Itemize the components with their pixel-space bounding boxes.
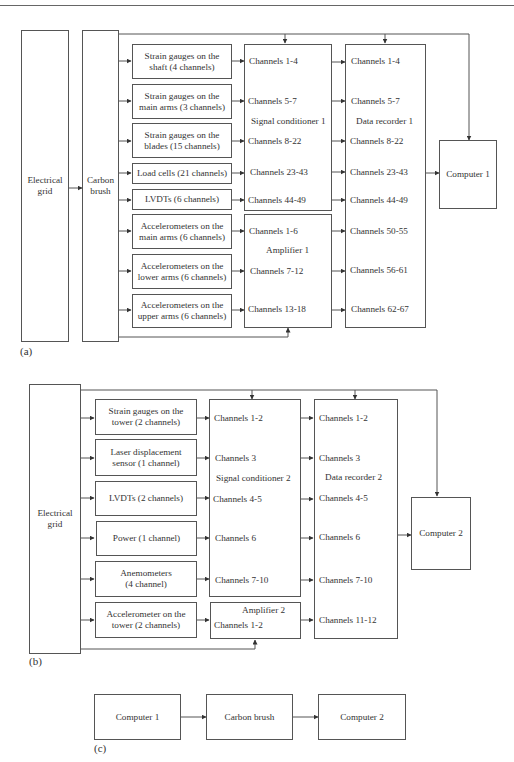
- computer-1-box: Computer 1: [439, 140, 497, 209]
- channel-label: Channels 7-12: [250, 266, 303, 277]
- panel-c-label: (c): [94, 742, 106, 754]
- computer-1-box-c: Computer 1: [94, 694, 181, 740]
- sensor-label: Power (1 channel): [113, 533, 180, 544]
- sensor-box: Strain gauges on thetower (2 channels): [95, 399, 197, 435]
- sensor-box: Accelerometers on themain arms (6 channe…: [132, 214, 232, 249]
- channel-label: Channels 44-49: [248, 195, 306, 206]
- channel-label: Channels 56-61: [350, 265, 408, 276]
- data-recorder-1: [345, 44, 426, 328]
- sensor-label: Strain gauges on the: [144, 130, 220, 141]
- sensor-box: Anemometers(4 channel): [95, 561, 197, 597]
- sensor-label: sensor (1 channel): [110, 458, 181, 469]
- sensor-label: main arms (6 channels): [139, 232, 225, 243]
- flow-box-label: Carbon brush: [225, 712, 275, 723]
- channel-label: Channels 13-18: [248, 304, 306, 315]
- sensor-label: shaft (4 channels): [145, 62, 220, 73]
- sensor-label: Laser displacement: [110, 447, 181, 458]
- sensor-label: Anemometers: [120, 568, 172, 579]
- channel-label: Channels 44-49: [350, 195, 408, 206]
- amplifier-title: Amplifier 2: [242, 605, 285, 616]
- sensor-label: (4 channel): [120, 579, 172, 590]
- sensor-label: tower (2 channels): [109, 417, 184, 428]
- channel-label: Channels 1-4: [249, 56, 298, 67]
- data-recorder-title: Data recorder 2: [325, 472, 382, 483]
- sensor-label: Strain gauges on the: [145, 51, 220, 62]
- channel-label: Channels 6: [215, 533, 256, 544]
- channel-label: Channels 7-10: [319, 575, 372, 586]
- sensor-label: main arms (3 channels): [139, 102, 225, 113]
- channel-label: Channels 50-55: [350, 226, 408, 237]
- signal-conditioner-1: [244, 44, 332, 211]
- channel-label: Channels 8-22: [350, 136, 403, 147]
- sensor-label: Accelerometers on the: [138, 261, 227, 272]
- channel-label: Channels 4-5: [213, 494, 262, 505]
- channel-label: Channels 3: [319, 453, 360, 464]
- channel-label: Channels 6: [319, 532, 360, 543]
- panel-b-label: (b): [29, 655, 42, 667]
- electrical-grid-label: Electricalgrid: [37, 508, 72, 530]
- signal-conditioner-title: Signal conditioner 1: [251, 116, 326, 127]
- channel-label: Channels 8-22: [248, 136, 301, 147]
- sensor-label: Accelerometers on the: [139, 221, 225, 232]
- sensor-label: lower arms (6 channels): [138, 272, 227, 283]
- sensor-box: Power (1 channel): [96, 521, 197, 556]
- panel-a-label: (a): [20, 345, 32, 357]
- channel-label: Channels 23-43: [250, 167, 308, 178]
- channel-label: Channels 1-4: [351, 56, 400, 67]
- data-recorder-2: [314, 399, 398, 639]
- sensor-label: Load cells (21 channels): [137, 168, 227, 179]
- sensor-label: Strain gauges on the: [139, 91, 225, 102]
- flow-box-label: Computer 1: [116, 712, 160, 723]
- channel-label: Channels 1-6: [249, 226, 298, 237]
- channel-label: Channels 3: [215, 453, 256, 464]
- sensor-box: Accelerometers on theupper arms (6 chann…: [132, 294, 232, 328]
- data-recorder-title: Data recorder 1: [356, 116, 413, 127]
- electrical-grid-box-b: Electricalgrid: [29, 384, 81, 654]
- sensor-box: Accelerometers on thelower arms (6 chann…: [132, 254, 232, 289]
- channel-label: Channels 5-7: [351, 96, 400, 107]
- signal-conditioner-title: Signal conditioner 2: [216, 473, 291, 484]
- sensor-label: tower (2 channels): [106, 620, 185, 631]
- flow-box-label: Computer 2: [340, 712, 384, 723]
- sensor-box: Accelerometer on thetower (2 channels): [95, 602, 197, 638]
- computer-label: Computer 1: [446, 169, 490, 180]
- channel-label: Channels 7-10: [215, 575, 268, 586]
- sensor-box: Laser displacementsensor (1 channel): [95, 439, 197, 476]
- carbon-brush-label: Carbonbrush: [87, 175, 114, 197]
- channel-label: Channels 5-7: [248, 96, 297, 107]
- channel-label: Channels 23-43: [350, 167, 408, 178]
- sensor-box: Strain gauges on theshaft (4 channels): [132, 44, 232, 79]
- sensor-box: LVDTs (2 channels): [95, 481, 197, 516]
- sensor-box: LVDTs (6 channels): [132, 189, 232, 210]
- computer-2-box-c: Computer 2: [318, 694, 406, 740]
- channel-label: Channels 11-12: [319, 615, 377, 626]
- amplifier-title: Amplifier 1: [266, 245, 309, 256]
- sensor-label: Accelerometer on the: [106, 609, 185, 620]
- sensor-label: LVDTs (6 channels): [145, 194, 219, 205]
- sensor-label: LVDTs (2 channels): [109, 493, 183, 504]
- electrical-grid-label: Electricalgrid: [27, 175, 62, 197]
- sensor-label: blades (15 channels): [144, 141, 220, 152]
- sensor-box: Strain gauges on theblades (15 channels): [132, 123, 232, 158]
- sensor-box: Strain gauges on themain arms (3 channel…: [132, 84, 232, 119]
- channel-label: Channels 1-2: [319, 413, 368, 424]
- electrical-grid-box-a: Electricalgrid: [21, 30, 69, 342]
- sensor-label: Accelerometers on the: [138, 300, 227, 311]
- sensor-label: upper arms (6 channels): [138, 311, 227, 322]
- sensor-box: Load cells (21 channels): [132, 163, 232, 184]
- carbon-brush-box-c: Carbon brush: [206, 694, 293, 740]
- channel-label: Channels 62-67: [351, 304, 409, 315]
- sensor-label: Strain gauges on the: [109, 406, 184, 417]
- computer-label: Computer 2: [419, 528, 463, 539]
- channel-label: Channels 1-2: [214, 620, 263, 631]
- channel-label: Channels 1-2: [214, 413, 263, 424]
- carbon-brush-box: Carbonbrush: [82, 30, 119, 342]
- computer-2-box: Computer 2: [411, 497, 471, 570]
- channel-label: Channels 4-5: [319, 493, 368, 504]
